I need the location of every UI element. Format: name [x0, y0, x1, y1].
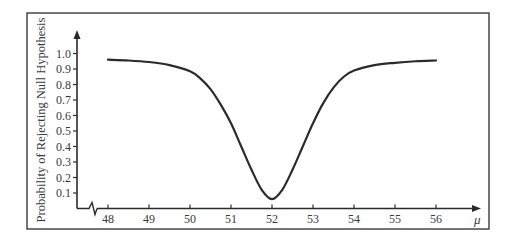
x-tick-label: 52 — [266, 212, 278, 226]
y-tick-label: 0.3 — [56, 155, 71, 169]
x-tick-label: 51 — [225, 212, 237, 226]
x-axis-break — [77, 203, 97, 215]
power-curve-line — [108, 60, 436, 200]
y-axis-arrow — [74, 30, 81, 39]
power-curve-chart: Probability of Rejecting Null Hypothesis… — [0, 0, 514, 251]
y-tick-label: 0.7 — [56, 93, 71, 107]
chart-frame — [27, 13, 489, 229]
x-axis: 484950515253545556 — [77, 203, 481, 226]
x-tick-label: 53 — [307, 212, 319, 226]
x-axis-title: μ — [473, 212, 481, 227]
y-tick-label: 0.4 — [56, 140, 71, 154]
x-tick-label: 49 — [143, 212, 155, 226]
y-axis-title: Probability of Rejecting Null Hypothesis — [34, 17, 48, 222]
x-tick-label: 55 — [389, 212, 401, 226]
series-layer — [108, 60, 436, 200]
x-tick-label: 56 — [430, 212, 442, 226]
y-tick-label: 0.9 — [56, 62, 71, 76]
y-axis: 0.10.20.30.40.50.60.70.80.91.0 — [56, 30, 81, 209]
x-tick-label: 50 — [184, 212, 196, 226]
y-tick-label: 0.2 — [56, 171, 71, 185]
y-tick-label: 0.8 — [56, 78, 71, 92]
y-tick-label: 1.0 — [56, 47, 71, 61]
y-tick-label: 0.6 — [56, 109, 71, 123]
x-tick-label: 48 — [102, 212, 114, 226]
x-tick-label: 54 — [348, 212, 360, 226]
x-axis-arrow — [472, 205, 481, 212]
y-tick-label: 0.1 — [56, 186, 71, 200]
y-tick-label: 0.5 — [56, 124, 71, 138]
